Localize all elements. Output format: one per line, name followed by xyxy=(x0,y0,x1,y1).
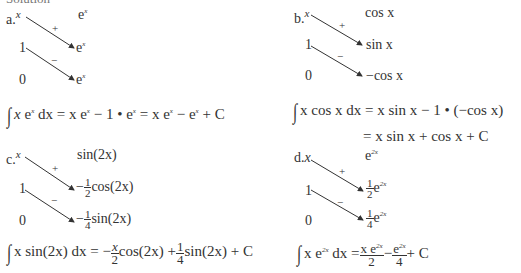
part-c-sign-plus: + xyxy=(52,162,58,174)
part-d-sign-plus: + xyxy=(339,165,345,177)
part-d-result: ∫x e2x dx =x e2x2−e2x4+ C xyxy=(296,240,429,268)
part-b-right-0: cos x xyxy=(365,5,394,21)
part-b-left-1: 1 xyxy=(305,37,312,53)
part-d-left-2: 0 xyxy=(305,213,312,229)
part-b-result-line-1: ∫x cos x dx = x sin x − 1 • (−cos x) xyxy=(292,99,503,125)
integral-sign: ∫ xyxy=(293,99,297,125)
part-a-sign-plus: + xyxy=(52,22,58,34)
integral-sign: ∫ xyxy=(297,241,301,267)
part-c-sign-minus: − xyxy=(51,194,57,206)
part-d-label: d.x xyxy=(294,150,311,166)
part-c-right-0: sin(2x) xyxy=(77,147,117,163)
part-a-result: ∫x ex dx = x ex − 1 • ex = x ex − ex + C xyxy=(6,103,225,129)
part-b-right-1: sin x xyxy=(366,37,393,53)
part-b-result-line-2: = x sin x + cos x + C xyxy=(363,128,488,145)
part-c-left-1: 1 xyxy=(19,181,26,197)
part-c-right-1: −12cos(2x) xyxy=(76,177,133,198)
part-c-result: ∫x sin(2x) dx = −x2cos(2x) +14sin(2x) + … xyxy=(6,240,253,266)
part-d-sign-minus: − xyxy=(337,196,343,208)
part-b-right-2: −cos x xyxy=(366,68,403,84)
part-b-sign-plus: + xyxy=(339,19,345,31)
part-d-left-1: 1 xyxy=(305,183,312,199)
part-a-sign-minus: − xyxy=(51,54,57,66)
integral-sign: ∫ xyxy=(7,103,11,129)
integral-sign: ∫ xyxy=(7,240,11,266)
part-a-right-0: ex xyxy=(78,7,87,23)
part-c-left-2: 0 xyxy=(19,213,26,229)
part-d-right-2: 14e2x xyxy=(366,208,386,229)
part-b-left-2: 0 xyxy=(305,68,312,84)
part-a-right-2: ex xyxy=(76,72,85,88)
part-b-sign-minus: − xyxy=(337,50,343,62)
part-a-left-2: 0 xyxy=(19,72,26,88)
part-c-label: c.x xyxy=(6,148,21,168)
part-d-right-0: e2x xyxy=(365,148,378,164)
part-c-right-2: −14sin(2x) xyxy=(76,209,131,230)
part-b-label: b.x xyxy=(294,7,309,27)
part-a-left-1: 1 xyxy=(19,40,26,56)
part-a-right-1: ex xyxy=(76,40,85,56)
part-a-label: a.x xyxy=(6,8,21,28)
part-d-right-1: 12e2x xyxy=(366,178,386,199)
